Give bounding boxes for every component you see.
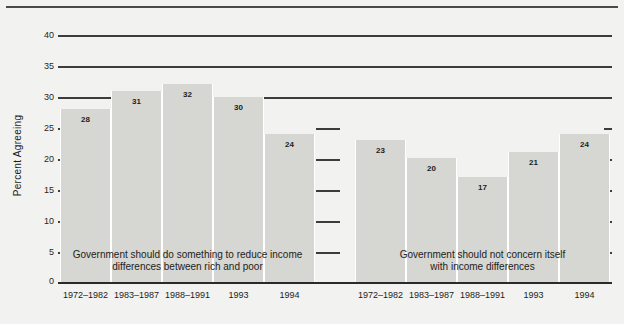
plot-area: Percent Agreeing 40 35 30 25 20 15 10 5 … [0,0,624,324]
x-tick-label-group2-1988-1991: 1988–1991 [457,290,508,300]
y-tickmark-mid-25 [316,128,340,130]
y-tickmark-mid-5 [316,252,340,254]
y-tickmark-mid-15 [316,190,340,192]
bar-value-group2-1993: 21 [508,158,559,167]
bar-value-group1-1994: 24 [264,140,315,149]
x-tick-label-group2-1972-1982: 1972–1982 [355,290,406,300]
bar-value-group2-1988-1991: 17 [457,183,508,192]
gridline-35 [58,66,612,68]
x-tick-label-group1-1994: 1994 [264,290,315,300]
y-tick-label-15: 15 [28,185,54,195]
bar-value-group2-1972-1982: 23 [355,146,406,155]
y-tickmark-mid-10 [316,221,340,223]
y-tick-label-0: 0 [28,276,54,286]
y-tick-label-25: 25 [28,123,54,133]
x-axis-line [58,282,612,284]
chart-figure: Percent Agreeing 40 35 30 25 20 15 10 5 … [0,0,624,324]
annotation-group1: Government should do something to reduce… [60,249,315,273]
bar-value-group1-1988-1991: 32 [162,90,213,99]
y-tick-label-20: 20 [28,154,54,164]
bar-value-group2-1983-1987: 20 [406,164,457,173]
x-tick-label-group2-1983-1987: 1983–1987 [406,290,457,300]
gridline-40 [58,35,612,37]
bar-value-group2-1994: 24 [559,140,610,149]
x-tick-label-group1-1988-1991: 1988–1991 [162,290,213,300]
x-tick-label-group1-1972-1982: 1972–1982 [60,290,111,300]
annotation-group2: Government should not concern itself wit… [355,249,610,273]
annotation-group1-line1: Government should do something to reduce… [60,249,315,261]
y-tickmark-right-25 [604,128,612,130]
y-tick-label-30: 30 [28,92,54,102]
x-tick-label-group2-1993: 1993 [508,290,559,300]
y-tickmark-mid-20 [316,159,340,161]
annotation-group2-line2: with income differences [355,261,610,273]
y-axis-title: Percent Agreeing [12,91,23,221]
y-tick-label-40: 40 [28,30,54,40]
annotation-group2-line1: Government should not concern itself [355,249,610,261]
x-tick-label-group1-1983-1987: 1983–1987 [111,290,162,300]
y-tick-label-5: 5 [28,247,54,257]
bar-value-group1-1983-1987: 31 [111,97,162,106]
annotation-group1-line2: differences between rich and poor [60,261,315,273]
bar-value-group1-1972-1982: 28 [60,115,111,124]
y-tick-label-35: 35 [28,61,54,71]
x-tick-label-group1-1993: 1993 [213,290,264,300]
bar-value-group1-1993: 30 [213,103,264,112]
y-tick-label-10: 10 [28,216,54,226]
x-tick-label-group2-1994: 1994 [559,290,610,300]
